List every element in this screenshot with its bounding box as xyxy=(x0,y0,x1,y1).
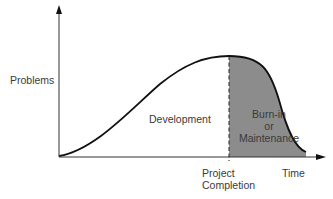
project-completion-label: Project Completion xyxy=(202,167,255,191)
x-axis-label: Time xyxy=(282,167,305,179)
maintenance-label-line-1: Burn-in xyxy=(234,108,304,120)
maintenance-label-line-3: Maintenance xyxy=(234,132,304,144)
x-axis-arrow-icon xyxy=(316,154,326,160)
project-completion-label-line-1: Project xyxy=(202,167,255,179)
project-completion-label-line-2: Completion xyxy=(202,179,255,191)
maintenance-label-line-2: or xyxy=(234,120,304,132)
y-axis-arrow-icon xyxy=(56,5,62,14)
development-label: Development xyxy=(149,113,211,125)
y-axis-label: Problems xyxy=(10,74,54,86)
maintenance-label: Burn-in or Maintenance xyxy=(234,108,304,144)
